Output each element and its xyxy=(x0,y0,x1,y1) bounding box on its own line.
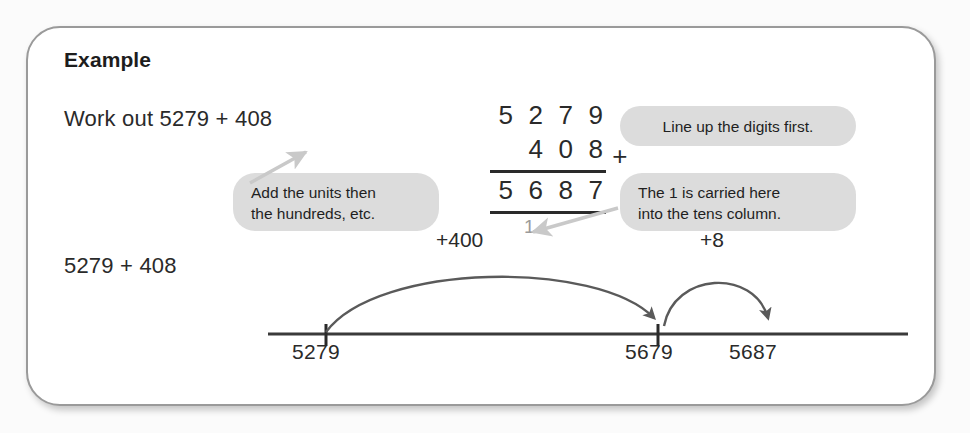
example-card: Example Work out 5279 + 408 5279 + 408 5… xyxy=(26,26,936,406)
callout-text-line-1: The 1 is carried here xyxy=(638,182,838,203)
digit: 0 xyxy=(556,134,576,165)
column-addition: 5 2 7 9 + 4 0 8 + 5 xyxy=(448,100,628,242)
addend-row-2: 4 0 8 + xyxy=(448,134,628,168)
callout-text-line-2: the hundreds, etc. xyxy=(251,203,421,224)
total-digits: 5 6 8 7 xyxy=(496,175,606,206)
number-line-diagram: +400 +8 5279 5679 5687 xyxy=(268,236,908,371)
callout-text-line-1: Add the units then xyxy=(251,182,421,203)
digit: 2 xyxy=(526,100,546,131)
digit xyxy=(496,134,516,165)
digit: 5 xyxy=(496,175,516,206)
digit: 9 xyxy=(586,100,606,131)
digit: 7 xyxy=(556,100,576,131)
number-line-graphic xyxy=(268,236,908,356)
digit: 5 xyxy=(496,100,516,131)
digit: 8 xyxy=(556,175,576,206)
question-prompt: Work out 5279 + 408 xyxy=(64,106,272,132)
callout-add-units: Add the units then the hundreds, etc. xyxy=(233,173,439,231)
callout-text: Line up the digits first. xyxy=(663,118,814,135)
digit: 6 xyxy=(526,175,546,206)
sum-rule-bottom xyxy=(490,211,606,214)
total-row: 5 6 8 7 + xyxy=(448,175,628,209)
callout-carried-one: The 1 is carried here into the tens colu… xyxy=(620,173,856,231)
hop-label-8: +8 xyxy=(700,228,724,252)
addend-1-digits: 5 2 7 9 xyxy=(496,100,606,131)
sum-rule-top xyxy=(490,170,606,173)
digit: 8 xyxy=(586,134,606,165)
hop-arc-8 xyxy=(664,283,768,326)
digit: 4 xyxy=(526,134,546,165)
hop-label-400: +400 xyxy=(436,228,483,252)
hop-arc-400 xyxy=(326,277,654,332)
callout-line-up-digits: Line up the digits first. xyxy=(620,106,856,146)
addend-2-digits: 4 0 8 xyxy=(496,134,606,165)
tick-label-5679: 5679 xyxy=(625,340,673,364)
tick-label-5279: 5279 xyxy=(292,340,340,364)
worksheet-page: Example Work out 5279 + 408 5279 + 408 5… xyxy=(0,0,970,433)
addend-row-1: 5 2 7 9 + xyxy=(448,100,628,134)
callout-text-line-2: into the tens column. xyxy=(638,203,838,224)
tick-label-5687: 5687 xyxy=(729,340,777,364)
plus-operator: + xyxy=(606,141,628,172)
page-title: Example xyxy=(64,48,151,72)
restated-expression: 5279 + 408 xyxy=(64,253,177,279)
digit: 7 xyxy=(586,175,606,206)
